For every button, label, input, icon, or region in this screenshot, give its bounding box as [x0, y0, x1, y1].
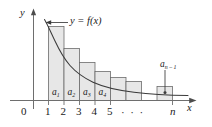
x-tick-label-n: n: [170, 106, 176, 117]
x-tick-label-3: 3: [76, 106, 82, 117]
y-axis-label-text: y: [20, 7, 25, 18]
integral-test-figure: y x 0 y = f(x) 1 2 3 4 5 · · · n a1 a2 a…: [0, 0, 212, 127]
x-tick-label-2: 2: [61, 106, 67, 117]
bar-label-a1-sub: 1: [57, 92, 60, 98]
origin-label-text: 0: [21, 105, 27, 117]
y-axis-label: y: [20, 8, 25, 19]
x-tick-text-4: 4: [92, 105, 98, 117]
curve-label-leader: [46, 20, 69, 24]
bar-label-a2: a2: [68, 88, 76, 99]
bar-label-a3-sub: 3: [88, 92, 91, 98]
x-tick-label-5: 5: [107, 106, 113, 117]
x-axis-ellipsis-text: · · ·: [121, 106, 145, 118]
x-axis-label-text: x: [187, 102, 192, 113]
bar-label-a4-sub: 4: [103, 92, 106, 98]
y-axis-arrowhead: [31, 9, 36, 16]
bar-label-a1: a1: [52, 88, 60, 99]
bar-label-a4: a4: [99, 88, 107, 99]
figure-canvas: [0, 0, 212, 127]
x-tick-text-2: 2: [61, 105, 67, 117]
x-tick-text-n: n: [170, 105, 176, 117]
origin-label: 0: [21, 106, 27, 117]
x-tick-text-3: 3: [76, 105, 82, 117]
x-tick-text-1: 1: [45, 105, 51, 117]
callout-label-sub: n – 1: [165, 64, 177, 70]
curve-equation-label: y = f(x): [70, 16, 102, 27]
bar-label-a3: a3: [83, 88, 91, 99]
bar-label-a2-sub: 2: [72, 92, 75, 98]
callout-label-an-minus-1: an – 1: [160, 60, 177, 71]
x-axis-ellipsis: · · ·: [121, 106, 145, 118]
curve-equation-text: y = f(x): [70, 15, 102, 26]
x-tick-label-1: 1: [45, 106, 51, 117]
x-tick-text-5: 5: [107, 105, 113, 117]
x-axis-label: x: [187, 103, 192, 114]
x-tick-label-4: 4: [92, 106, 98, 117]
